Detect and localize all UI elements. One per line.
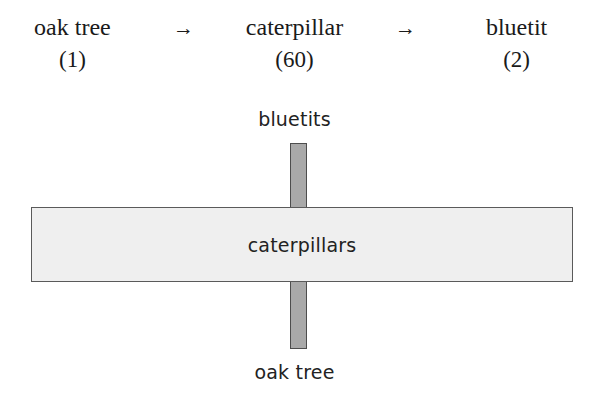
- diagram-label-bluetits: bluetits: [0, 108, 589, 130]
- diagram-label-caterpillars: caterpillars: [248, 234, 357, 256]
- caterpillars-bar: caterpillars: [31, 207, 573, 282]
- biomass-diagram: bluetits caterpillars oak tree: [0, 0, 589, 403]
- diagram-label-oak-tree: oak tree: [0, 361, 589, 383]
